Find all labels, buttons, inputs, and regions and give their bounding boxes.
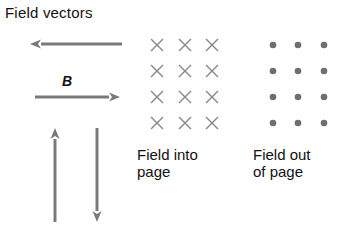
cross-icon bbox=[206, 117, 218, 129]
field-diagram-canvas bbox=[0, 0, 349, 233]
caption-line: Field into bbox=[137, 146, 198, 163]
cross-icon bbox=[179, 39, 191, 51]
caption-line: Field out bbox=[253, 146, 311, 163]
field-out-of-page-caption: Field out of page bbox=[253, 146, 311, 180]
field-into-page-caption: Field into page bbox=[137, 146, 198, 180]
dot-icon bbox=[270, 94, 277, 101]
caption-line: page bbox=[137, 163, 198, 180]
dot-icon bbox=[295, 68, 302, 75]
cross-icon bbox=[206, 65, 218, 77]
cross-icon bbox=[206, 91, 218, 103]
cross-icon bbox=[151, 117, 163, 129]
cross-icon bbox=[151, 39, 163, 51]
cross-icon bbox=[179, 65, 191, 77]
dot-icon bbox=[321, 94, 328, 101]
dot-icon bbox=[321, 68, 328, 75]
dot-icon bbox=[270, 120, 277, 127]
arrow-up-icon bbox=[51, 128, 60, 222]
cross-icon bbox=[179, 91, 191, 103]
dot-icon bbox=[295, 120, 302, 127]
field-out-of-page-grid bbox=[270, 42, 328, 127]
arrow-right-icon bbox=[35, 93, 120, 102]
field-vector-arrows bbox=[30, 40, 122, 223]
arrow-left-icon bbox=[30, 40, 122, 49]
cross-icon bbox=[179, 117, 191, 129]
cross-icon bbox=[151, 65, 163, 77]
cross-icon bbox=[206, 39, 218, 51]
field-into-page-grid bbox=[151, 39, 218, 129]
dot-icon bbox=[321, 42, 328, 49]
dot-icon bbox=[270, 42, 277, 49]
caption-line: of page bbox=[253, 163, 311, 180]
arrow-down-icon bbox=[93, 128, 102, 222]
dot-icon bbox=[295, 94, 302, 101]
dot-icon bbox=[321, 120, 328, 127]
dot-icon bbox=[295, 42, 302, 49]
cross-icon bbox=[151, 91, 163, 103]
dot-icon bbox=[270, 68, 277, 75]
